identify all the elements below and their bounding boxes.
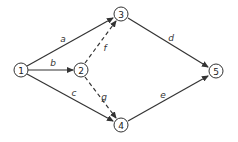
node-label-2: 2 xyxy=(78,66,84,76)
node-label-1: 1 xyxy=(18,66,24,76)
edge-label-c: c xyxy=(72,88,77,98)
edge-label-b: b xyxy=(50,58,56,68)
node-2: 2 xyxy=(74,63,88,77)
node-4: 4 xyxy=(114,118,128,132)
node-label-5: 5 xyxy=(213,67,219,77)
node-3: 3 xyxy=(114,7,128,21)
edge-c xyxy=(27,74,113,121)
node-label-4: 4 xyxy=(118,121,124,131)
edge-label-e: e xyxy=(160,90,166,100)
edge-label-d: d xyxy=(168,33,174,43)
node-5: 5 xyxy=(209,64,223,78)
node-label-3: 3 xyxy=(118,10,124,20)
network-diagram: a b c d e f g 1 2 3 4 5 xyxy=(0,0,238,142)
node-1: 1 xyxy=(14,63,28,77)
edge-e xyxy=(128,76,208,121)
edge-f xyxy=(85,21,116,63)
edge-label-a: a xyxy=(60,34,66,44)
edge-label-f: f xyxy=(103,43,108,53)
edge-a xyxy=(27,18,113,66)
edge-label-g: g xyxy=(101,92,107,102)
